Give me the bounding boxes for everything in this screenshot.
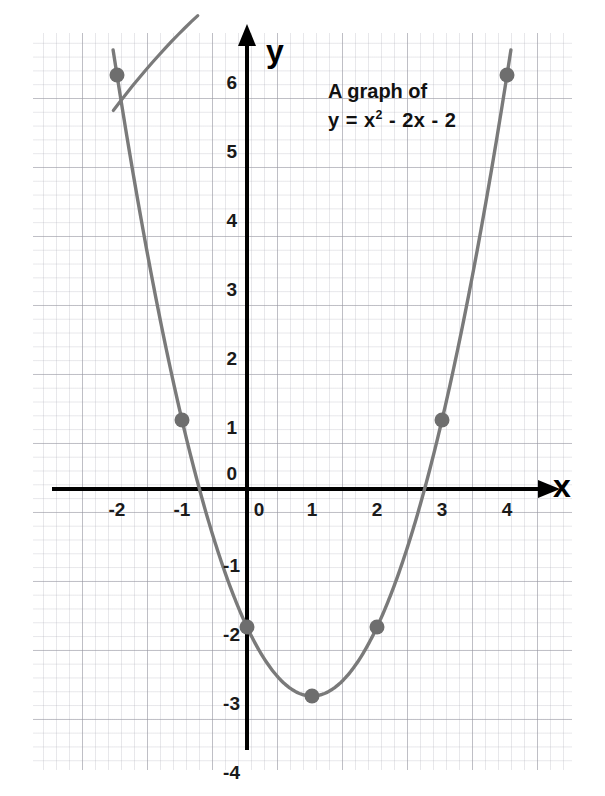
annotation-line-2: y = x2 - 2x - 2	[328, 106, 456, 135]
y-tick-neg2: -2	[223, 625, 240, 644]
y-tick-6: 6	[226, 73, 237, 92]
y-tick-1: 1	[226, 418, 237, 437]
y-tick-4: 4	[226, 211, 237, 230]
data-point	[110, 68, 125, 83]
x-tick-4: 4	[502, 500, 513, 519]
data-point	[305, 689, 320, 704]
plot-canvas	[0, 0, 605, 796]
data-point	[240, 620, 255, 635]
y-tick-3: 3	[226, 280, 237, 299]
x-tick-0: 0	[254, 500, 265, 519]
y-tick-neg4: -4	[223, 763, 240, 782]
data-point-group	[110, 68, 515, 704]
graph-annotation: A graph of y = x2 - 2x - 2	[328, 77, 456, 135]
x-axis-label: x	[553, 470, 571, 502]
y-tick-neg3: -3	[223, 694, 240, 713]
y-tick-neg1: -1	[223, 556, 240, 575]
annotation-eq-exponent: 2	[376, 108, 383, 122]
x-tick-neg1: -1	[174, 500, 191, 519]
x-tick-1: 1	[307, 500, 318, 519]
x-tick-neg2: -2	[109, 500, 126, 519]
annotation-eq-suffix: - 2x - 2	[383, 109, 456, 131]
annotation-line-1: A graph of	[328, 77, 456, 106]
data-point	[435, 413, 450, 428]
x-tick-2: 2	[372, 500, 383, 519]
y-tick-0: 0	[226, 464, 237, 483]
x-tick-3: 3	[437, 500, 448, 519]
annotation-eq-prefix: y = x	[328, 109, 376, 131]
y-tick-5: 5	[226, 142, 237, 161]
graph-page: 6 5 4 3 2 1 0 -1 -2 -3 -4 -2 -1 0 1 2 3 …	[0, 0, 605, 796]
data-point	[370, 620, 385, 635]
curve-group	[113, 50, 511, 696]
data-point	[175, 413, 190, 428]
y-tick-2: 2	[226, 349, 237, 368]
x-axis	[52, 480, 560, 498]
data-point	[500, 68, 515, 83]
y-axis-label: y	[266, 35, 284, 67]
